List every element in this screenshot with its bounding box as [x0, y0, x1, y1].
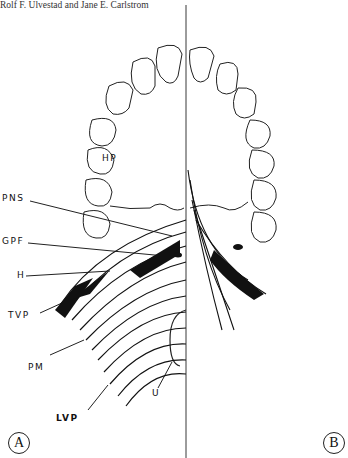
panel-label-a: A [8, 432, 30, 454]
label-lvp: LVP [56, 413, 79, 423]
label-pns: PNS [2, 193, 24, 203]
label-h: H [17, 270, 25, 280]
label-u: U [152, 388, 160, 398]
label-hp: HP [102, 153, 117, 163]
label-tvp: TVP [8, 310, 30, 320]
panel-label-b: B [323, 432, 345, 454]
label-gpf: GPF [2, 236, 24, 246]
palate-anatomy-drawing [0, 0, 348, 458]
label-pm: PM [28, 362, 44, 372]
